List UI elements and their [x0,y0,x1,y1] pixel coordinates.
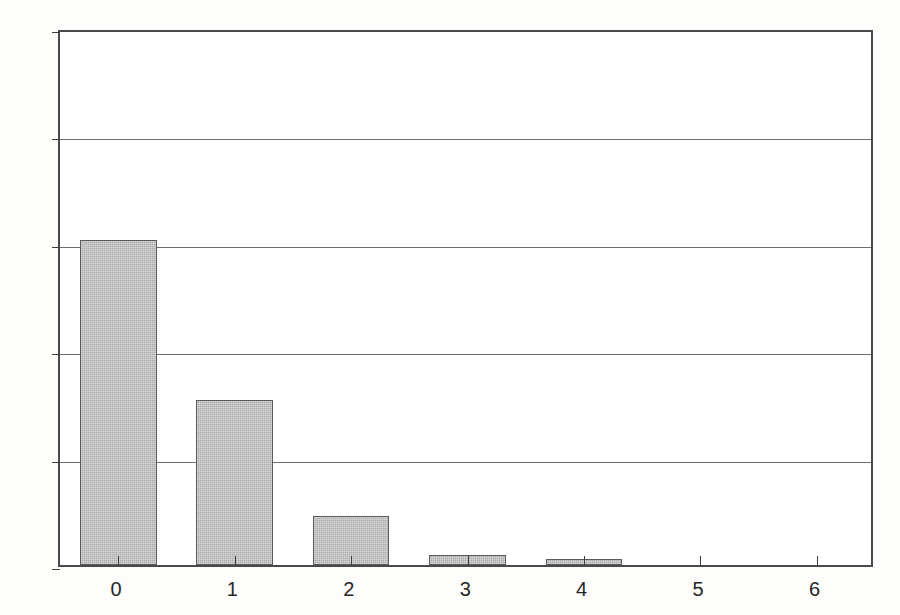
chart-page: 0123456 00.20.40.60.81 [0,0,900,615]
y-axis-tick-labels: 00.20.40.60.81 [0,0,900,615]
